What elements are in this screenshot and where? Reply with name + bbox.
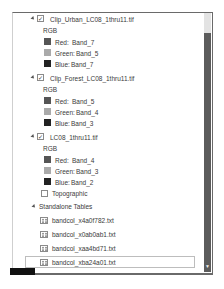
- layer-name[interactable]: Clip_Forest_LC08_1thru11.tif: [50, 72, 134, 84]
- vertical-scrollbar[interactable]: [204, 13, 211, 272]
- band-channel: Blue:: [55, 58, 70, 70]
- layer-name[interactable]: Clip_Urban_LC08_1thru11.tif: [50, 13, 134, 25]
- renderer-label: RGB: [43, 24, 57, 36]
- red-swatch: [44, 38, 51, 45]
- band-value: Band_7: [71, 58, 93, 70]
- red-swatch: [44, 156, 51, 163]
- green-swatch: [44, 49, 51, 56]
- renderer-label: RGB: [43, 142, 57, 154]
- standalone-tables-header[interactable]: Standalone Tables: [39, 200, 92, 212]
- layer-visibility-checkbox[interactable]: ✓: [37, 15, 44, 22]
- blue-swatch: [44, 60, 51, 67]
- renderer-label: RGB: [43, 83, 57, 95]
- table-item[interactable]: bandcol_x4a0f782.txt: [52, 214, 114, 226]
- table-icon: [40, 231, 48, 238]
- basemap-name[interactable]: Topographic: [52, 187, 87, 199]
- table-icon: [40, 259, 48, 266]
- table-item-selected[interactable]: bandcol_xba24a01.txt: [52, 256, 116, 268]
- band-channel: Blue:: [55, 117, 70, 129]
- green-swatch: [44, 167, 51, 174]
- table-item[interactable]: bandcol_x0ab0ab1.txt: [52, 228, 116, 240]
- layer-name[interactable]: LC08_1thru11.tif: [50, 131, 98, 143]
- blue-swatch: [44, 178, 51, 185]
- table-icon: [40, 217, 48, 224]
- blue-swatch: [44, 119, 51, 126]
- red-swatch: [44, 97, 51, 104]
- basemap-visibility-checkbox[interactable]: [41, 190, 48, 197]
- green-swatch: [44, 108, 51, 115]
- band-value: Band_3: [71, 117, 93, 129]
- layer-visibility-checkbox[interactable]: ✓: [37, 74, 44, 81]
- scrollbar-thumb[interactable]: [204, 13, 211, 33]
- table-item[interactable]: bandcol_xaa4bd71.txt: [52, 242, 116, 254]
- scroll-down-arrow-icon[interactable]: ▼: [205, 263, 210, 269]
- bottom-left-bar: [10, 268, 35, 275]
- table-icon: [40, 245, 48, 252]
- layer-visibility-checkbox[interactable]: ✓: [37, 133, 44, 140]
